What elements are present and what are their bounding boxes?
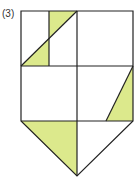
geometry-figure bbox=[0, 0, 135, 179]
figure-lines bbox=[21, 11, 133, 176]
